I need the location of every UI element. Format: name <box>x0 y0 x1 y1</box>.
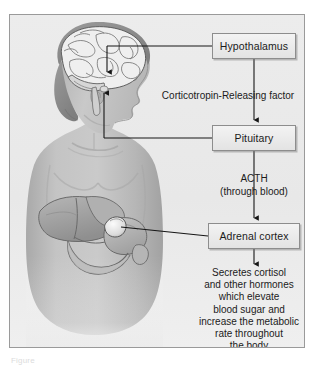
box-hypothalamus[interactable]: Hypothalamus <box>212 33 296 59</box>
connector-adrenal-leader <box>121 227 208 236</box>
outcome-line-1: Secretes cortisol <box>184 267 305 279</box>
label-acth-line1: ACTH <box>206 173 302 186</box>
figure-root: Hypothalamus Pituitary Adrenal cortex Co… <box>0 0 328 372</box>
label-corticotropin-releasing-factor: Corticotropin-Releasing factor <box>142 90 305 103</box>
figure-caption: Figure <box>11 356 311 365</box>
label-adrenal-outcome: Secretes cortisol and other hormones whi… <box>184 267 305 348</box>
outcome-line-2: and other hormones <box>184 279 305 291</box>
outcome-line-3: which elevate <box>184 291 305 303</box>
diagram-panel: Hypothalamus Pituitary Adrenal cortex Co… <box>9 14 305 348</box>
outcome-line-6: rate throughout <box>184 328 305 340</box>
label-acth-line2: (through blood) <box>206 186 302 199</box>
box-pituitary[interactable]: Pituitary <box>212 125 296 151</box>
box-adrenal-cortex[interactable]: Adrenal cortex <box>208 223 300 249</box>
label-acth: ACTH (through blood) <box>206 173 302 198</box>
outcome-line-5: increase the metabolic <box>184 316 305 328</box>
outcome-line-4: blood sugar and <box>184 304 305 316</box>
outcome-line-7: the body <box>184 340 305 348</box>
